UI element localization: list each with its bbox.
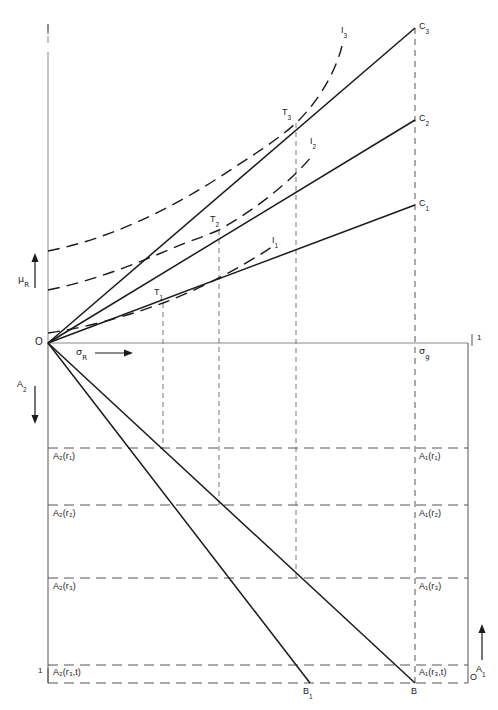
endpoint-label-c3: C3 bbox=[419, 22, 429, 31]
borrowing-line-b bbox=[48, 343, 415, 683]
a1-arrow-head bbox=[479, 624, 486, 633]
curve-label-i1: I1 bbox=[272, 236, 278, 245]
indifference-curve-i2 bbox=[48, 156, 312, 290]
tangency-label-t2: T2 bbox=[210, 215, 219, 224]
borrowing-line-b1 bbox=[48, 343, 310, 683]
tangency-label-t3: T3 bbox=[282, 108, 291, 117]
mu-r-arrow-head bbox=[32, 253, 39, 262]
a2-axis-label: A2 bbox=[17, 380, 27, 389]
gridline-label-a1-r1: A₁(r₁) bbox=[419, 452, 441, 461]
unit-label-right-upper: 1 bbox=[477, 334, 482, 342]
tangency-label-t1: T1 bbox=[154, 288, 163, 297]
capital-market-line-1 bbox=[48, 205, 415, 343]
indifference-curve-i3 bbox=[48, 46, 342, 251]
a1-axis-label: A1 bbox=[476, 665, 486, 674]
endpoint-label-b: B bbox=[411, 687, 417, 696]
endpoint-label-c1: C1 bbox=[419, 199, 429, 208]
risk-return-figure: μR σR σg A2 A1 O O 1 1 T1 T2 T3 C1 C2 C3… bbox=[0, 0, 498, 710]
gridline-label-a1-r2: A₁(r₂) bbox=[419, 509, 441, 518]
sigma-g-axis-label: σg bbox=[419, 346, 430, 356]
gridline-label-a2-r1: A₂(r₁) bbox=[53, 452, 75, 461]
gridline-label-a2-r3-t: A₂(r₃,t) bbox=[53, 668, 81, 677]
a2-arrow-head bbox=[32, 415, 39, 424]
unit-label-left-lower: 1 bbox=[38, 667, 43, 675]
sigma-r-axis-label: σR bbox=[76, 347, 87, 357]
capital-market-line-2 bbox=[48, 120, 415, 343]
endpoint-label-c2: C2 bbox=[419, 114, 429, 123]
gridline-label-a2-r3: A₂(r₃) bbox=[53, 582, 76, 591]
gridline-label-a1-r3-t: A₁(r₃,t) bbox=[419, 668, 447, 677]
mu-r-axis-label: μR bbox=[18, 274, 29, 284]
gridline-label-a1-r3: A₁(r₃) bbox=[419, 582, 441, 591]
endpoint-label-b1: B1 bbox=[303, 687, 313, 696]
lower-right-origin-label: O bbox=[470, 673, 477, 682]
origin-label: O bbox=[35, 337, 43, 347]
sigma-r-arrow-head bbox=[124, 350, 133, 357]
curve-label-i2: I2 bbox=[310, 137, 316, 146]
capital-market-line-3 bbox=[48, 28, 415, 343]
gridline-label-a2-r2: A₂(r₂) bbox=[53, 509, 76, 518]
curve-label-i3: I3 bbox=[341, 26, 347, 35]
